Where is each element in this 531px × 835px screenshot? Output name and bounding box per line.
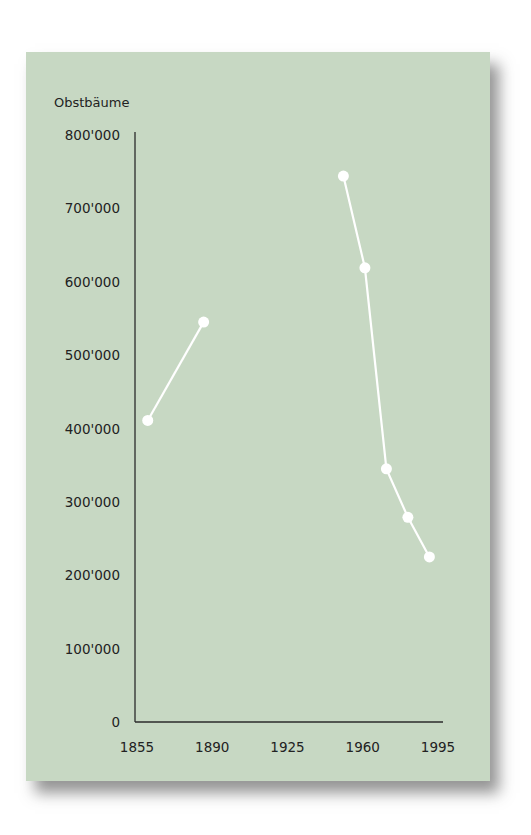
data-point-marker bbox=[359, 262, 370, 273]
data-point-marker bbox=[402, 512, 413, 523]
x-tick-label: 1960 bbox=[346, 739, 380, 755]
y-tick-label: 700'000 bbox=[65, 200, 120, 216]
data-point-marker bbox=[198, 317, 209, 328]
line-chart: Obstbäume 0100'000200'000300'000400'0005… bbox=[0, 0, 531, 835]
data-point-marker bbox=[338, 171, 349, 182]
y-tick-label: 400'000 bbox=[65, 421, 120, 437]
y-tick-label: 0 bbox=[111, 714, 120, 730]
x-tick-label: 1925 bbox=[270, 739, 304, 755]
x-tick-label: 1855 bbox=[120, 739, 154, 755]
data-point-marker bbox=[424, 551, 435, 562]
y-axis-ticks: 0100'000200'000300'000400'000500'000600'… bbox=[65, 127, 120, 730]
data-point-marker bbox=[381, 463, 392, 474]
x-axis-ticks: 18551890192519601995 bbox=[120, 739, 455, 755]
data-series bbox=[142, 171, 435, 563]
y-tick-label: 500'000 bbox=[65, 347, 120, 363]
series-line bbox=[343, 176, 429, 557]
y-tick-label: 200'000 bbox=[65, 567, 120, 583]
y-tick-label: 100'000 bbox=[65, 641, 120, 657]
y-tick-label: 600'000 bbox=[65, 274, 120, 290]
y-axis-title: Obstbäume bbox=[54, 95, 129, 110]
y-tick-label: 800'000 bbox=[65, 127, 120, 143]
data-point-marker bbox=[142, 415, 153, 426]
x-tick-label: 1890 bbox=[195, 739, 229, 755]
y-tick-label: 300'000 bbox=[65, 494, 120, 510]
series-line bbox=[148, 322, 204, 420]
x-tick-label: 1995 bbox=[421, 739, 455, 755]
